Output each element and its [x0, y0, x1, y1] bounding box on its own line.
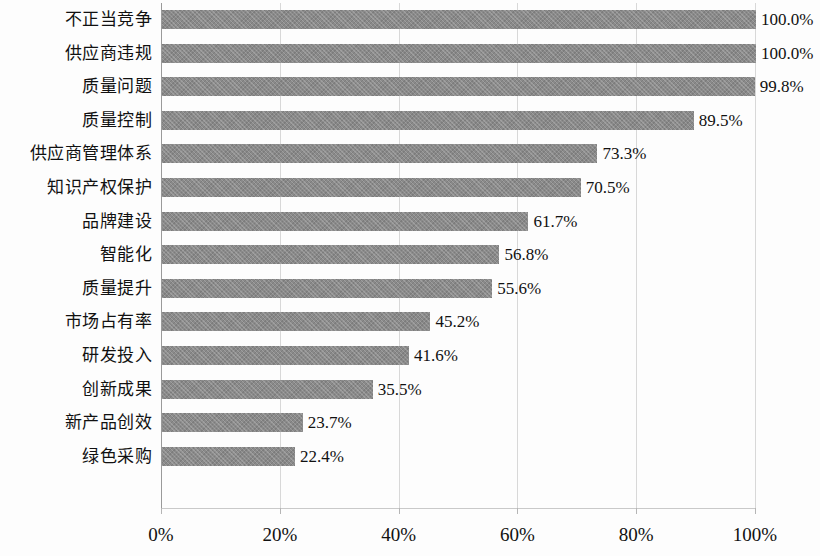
bar	[162, 447, 295, 466]
bar-value-label: 73.3%	[602, 144, 646, 163]
category-label: 绿色采购	[0, 440, 152, 474]
category-label: 质量提升	[0, 272, 152, 306]
x-tick-label: 40%	[354, 524, 444, 546]
bar-value-label: 100.0%	[761, 10, 813, 29]
x-tick-label: 20%	[235, 524, 325, 546]
bar-value-label: 23.7%	[308, 413, 352, 432]
bar	[162, 111, 694, 130]
bar	[162, 380, 373, 399]
bar-row: 质量控制89.5%	[0, 104, 820, 138]
bar-value-label: 56.8%	[504, 245, 548, 264]
category-label: 质量问题	[0, 70, 152, 104]
bar	[162, 178, 581, 197]
bar-rows: 不正当竞争100.0%供应商违规100.0%质量问题99.8%质量控制89.5%…	[0, 0, 820, 508]
category-label: 新产品创效	[0, 406, 152, 440]
bar	[162, 312, 430, 331]
bar-value-label: 100.0%	[761, 44, 813, 63]
bar-row: 新产品创效23.7%	[0, 406, 820, 440]
bar-row: 市场占有率45.2%	[0, 305, 820, 339]
x-tick-mark	[161, 508, 162, 514]
bar-value-label: 61.7%	[533, 212, 577, 231]
bar-row: 供应商违规100.0%	[0, 37, 820, 71]
bar-value-label: 22.4%	[300, 447, 344, 466]
bar-row: 质量提升55.6%	[0, 272, 820, 306]
x-tick-label: 80%	[591, 524, 681, 546]
x-tick-mark	[517, 508, 518, 514]
category-label: 供应商违规	[0, 37, 152, 71]
bar-row: 不正当竞争100.0%	[0, 3, 820, 37]
bar-row: 品牌建设61.7%	[0, 205, 820, 239]
category-label: 知识产权保护	[0, 171, 152, 205]
bar-value-label: 35.5%	[378, 380, 422, 399]
bar-value-label: 55.6%	[497, 279, 541, 298]
x-tick-mark	[636, 508, 637, 514]
x-tick-label: 0%	[116, 524, 206, 546]
bar	[162, 346, 409, 365]
bar-value-label: 45.2%	[435, 312, 479, 331]
category-label: 创新成果	[0, 373, 152, 407]
bar	[162, 245, 499, 264]
category-label: 供应商管理体系	[0, 137, 152, 171]
category-label: 质量控制	[0, 104, 152, 138]
x-tick-label: 100%	[710, 524, 800, 546]
x-axis-line	[161, 508, 756, 509]
bar	[162, 212, 528, 231]
bar-row: 知识产权保护70.5%	[0, 171, 820, 205]
bar-row: 智能化56.8%	[0, 238, 820, 272]
bar	[162, 77, 755, 96]
category-label: 智能化	[0, 238, 152, 272]
bar	[162, 10, 756, 29]
bar-row: 供应商管理体系73.3%	[0, 137, 820, 171]
bar	[162, 144, 597, 163]
category-label: 不正当竞争	[0, 3, 152, 37]
bar-chart: 不正当竞争100.0%供应商违规100.0%质量问题99.8%质量控制89.5%…	[0, 0, 820, 556]
bar-row: 研发投入41.6%	[0, 339, 820, 373]
x-tick-mark	[399, 508, 400, 514]
bar-row: 质量问题99.8%	[0, 70, 820, 104]
category-label: 市场占有率	[0, 305, 152, 339]
x-tick-mark	[755, 508, 756, 514]
bar	[162, 279, 492, 298]
x-tick-mark	[280, 508, 281, 514]
bar-value-label: 70.5%	[586, 178, 630, 197]
x-tick-label: 60%	[472, 524, 562, 546]
bar-row: 绿色采购22.4%	[0, 440, 820, 474]
bar-row: 创新成果35.5%	[0, 373, 820, 407]
category-label: 研发投入	[0, 339, 152, 373]
bar	[162, 413, 303, 432]
bar-value-label: 41.6%	[414, 346, 458, 365]
category-label: 品牌建设	[0, 205, 152, 239]
bar	[162, 44, 756, 63]
bar-value-label: 99.8%	[760, 77, 804, 96]
bar-value-label: 89.5%	[699, 111, 743, 130]
